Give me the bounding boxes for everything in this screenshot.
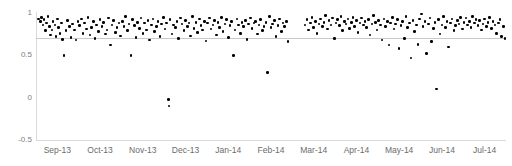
data-point: [265, 21, 268, 24]
data-point: [439, 33, 442, 36]
data-point: [236, 18, 239, 21]
data-point: [444, 26, 447, 29]
data-point: [195, 21, 198, 24]
data-point: [136, 21, 139, 24]
x-tick-label: Oct-13: [77, 145, 123, 155]
data-point: [314, 20, 317, 23]
data-point: [181, 23, 184, 26]
data-point: [164, 28, 167, 31]
data-point: [311, 16, 314, 19]
x-tick-label: Jan-14: [205, 145, 251, 155]
data-point: [316, 32, 319, 35]
data-point: [478, 19, 481, 22]
data-point: [268, 15, 271, 18]
data-point: [412, 19, 415, 22]
data-point: [362, 24, 365, 27]
data-point: [352, 16, 355, 19]
data-point: [263, 25, 266, 28]
data-point: [51, 29, 54, 32]
data-point: [193, 27, 196, 30]
data-point: [143, 22, 146, 25]
data-point: [480, 29, 483, 32]
data-point: [184, 19, 187, 22]
data-point: [138, 27, 141, 30]
data-point: [210, 28, 213, 31]
data-point: [65, 29, 68, 32]
data-point: [468, 20, 471, 23]
data-point: [364, 20, 367, 23]
data-point: [112, 19, 115, 22]
data-point: [155, 25, 158, 28]
data-point: [121, 20, 124, 23]
y-tick-label: -0.5: [2, 136, 32, 144]
data-point: [388, 44, 391, 47]
data-point: [348, 27, 351, 30]
data-point: [43, 18, 46, 21]
data-point: [324, 14, 327, 17]
data-point: [186, 25, 189, 28]
data-point: [447, 46, 450, 49]
data-point: [494, 24, 497, 27]
data-point: [359, 22, 362, 25]
y-tick-label: 0: [2, 94, 32, 102]
data-point: [249, 17, 252, 20]
data-point: [94, 37, 97, 40]
data-point: [458, 23, 461, 26]
data-point: [405, 15, 408, 18]
data-point: [326, 28, 329, 31]
data-point: [435, 88, 438, 91]
data-point: [254, 20, 257, 23]
data-point: [454, 24, 457, 27]
data-point: [432, 27, 435, 30]
data-point: [237, 24, 240, 27]
data-point: [403, 37, 406, 40]
data-point: [135, 36, 138, 39]
data-point: [371, 23, 374, 26]
data-point: [49, 34, 52, 37]
data-point: [304, 24, 307, 27]
x-tick-label: Sep-13: [34, 145, 80, 155]
data-point: [165, 22, 168, 25]
data-point: [57, 26, 60, 29]
data-point: [471, 15, 474, 18]
data-point: [55, 35, 58, 38]
data-point: [73, 29, 76, 32]
data-point: [391, 16, 394, 19]
data-point: [230, 20, 233, 23]
data-point: [372, 14, 375, 17]
data-point: [465, 17, 468, 20]
data-point: [336, 18, 339, 21]
data-point: [157, 20, 160, 23]
data-point: [473, 22, 476, 25]
data-point: [485, 25, 488, 28]
data-point: [283, 25, 286, 28]
data-point: [277, 24, 280, 27]
data-point: [56, 18, 59, 21]
data-point: [145, 29, 148, 32]
data-point: [133, 24, 136, 27]
data-point: [318, 23, 321, 26]
data-point: [285, 20, 288, 23]
data-point: [502, 25, 505, 28]
data-point: [102, 21, 105, 24]
data-point: [160, 23, 163, 26]
y-axis-labels: -0.500.51: [0, 0, 32, 166]
data-point: [246, 38, 249, 41]
data-point: [80, 18, 83, 21]
data-point: [377, 19, 380, 22]
data-point: [107, 17, 110, 20]
data-point: [420, 13, 423, 15]
x-tick-label: Jun-14: [419, 145, 465, 155]
data-point: [470, 26, 473, 29]
data-point: [418, 18, 421, 21]
data-point: [82, 32, 85, 35]
data-point: [278, 18, 281, 21]
data-point: [333, 37, 336, 40]
data-point: [374, 21, 377, 24]
data-point: [227, 36, 230, 39]
data-point: [244, 19, 247, 22]
x-tick-label: Feb-14: [248, 145, 294, 155]
data-point: [429, 17, 432, 20]
data-point: [376, 29, 379, 32]
data-point: [345, 23, 348, 26]
